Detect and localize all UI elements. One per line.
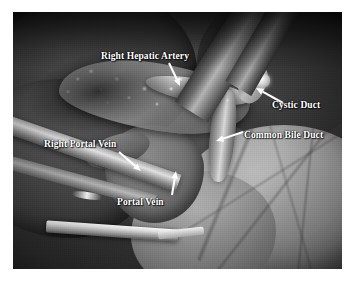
figure-root: Right Hepatic Artery Cystic Duct Common … — [0, 0, 351, 283]
surgical-photograph — [13, 12, 342, 269]
vignette-overlay — [13, 12, 342, 269]
